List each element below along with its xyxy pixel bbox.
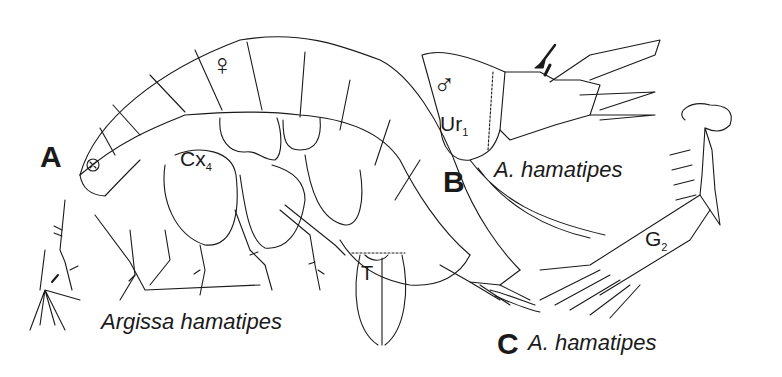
female-symbol: ♀ (211, 50, 234, 80)
uropod-label: Ur1 (440, 112, 468, 138)
species-label-a: Argissa hamatipes (101, 309, 282, 335)
coxa-label-text: Cx (180, 147, 206, 170)
telson-label: T (361, 262, 373, 285)
male-symbol: ♂ (433, 70, 456, 100)
species-label-c: A. hamatipes (528, 330, 656, 356)
uropod-label-text: Ur (440, 112, 462, 135)
coxa-label-subscript: 4 (206, 161, 212, 173)
gnathopod-label-subscript: 2 (661, 241, 667, 253)
uropod-label-subscript: 1 (462, 126, 468, 138)
panel-letter-a: A (40, 140, 62, 174)
gnathopod-label: G2 (645, 227, 667, 253)
species-label-b: A. hamatipes (494, 157, 622, 183)
gnathopod-label-text: G (645, 227, 661, 250)
gnathopod-drawing (540, 104, 731, 318)
uropod-drawing (422, 40, 660, 238)
panel-letter-c: C (497, 327, 519, 361)
coxa-label: Cx4 (180, 147, 212, 173)
panel-letter-b: B (443, 165, 465, 199)
